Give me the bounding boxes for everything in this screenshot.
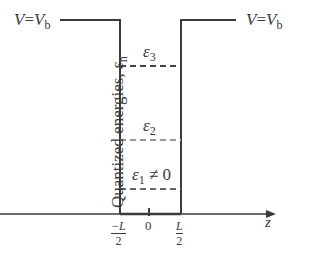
level-symbol: ε xyxy=(132,165,139,184)
barrier-symbol: V xyxy=(34,10,44,29)
equals-sign: = xyxy=(256,10,266,29)
z-axis-label: z xyxy=(265,214,271,231)
level-subscript: 3 xyxy=(150,50,156,64)
level-suffix: ≠ 0 xyxy=(145,165,171,184)
tick-denominator: 2 xyxy=(176,235,182,247)
y-axis-label-symbol: ε xyxy=(108,62,127,69)
barrier-subscript: b xyxy=(44,18,50,32)
right-barrier-label: V=Vb xyxy=(246,10,282,33)
level-symbol: ε xyxy=(143,116,150,135)
tick-minus-l-over-2: −L2 xyxy=(111,220,126,247)
tick-numerator: −L xyxy=(111,220,126,232)
y-axis-label: Quantized energies, εn xyxy=(108,56,131,208)
level-3-label: ε3 xyxy=(143,42,156,65)
tick-l-over-2: L2 xyxy=(176,220,183,247)
level-2-label: ε2 xyxy=(143,116,156,139)
level-symbol: ε xyxy=(143,42,150,61)
barrier-symbol: V xyxy=(266,10,276,29)
y-axis-label-subscript: n xyxy=(116,56,130,62)
level-subscript: 2 xyxy=(150,124,156,138)
tick-denominator: 2 xyxy=(115,235,121,247)
potential-symbol: V xyxy=(14,10,24,29)
tick-numerator: L xyxy=(176,220,183,232)
barrier-subscript: b xyxy=(276,18,282,32)
equals-sign: = xyxy=(24,10,34,29)
potential-symbol: V xyxy=(246,10,256,29)
level-1-label: ε1 ≠ 0 xyxy=(132,165,171,188)
y-axis-label-text: Quantized energies, xyxy=(108,69,127,208)
left-barrier-label: V=Vb xyxy=(14,10,50,33)
right-barrier-line xyxy=(181,20,236,214)
tick-zero: 0 xyxy=(145,218,152,234)
